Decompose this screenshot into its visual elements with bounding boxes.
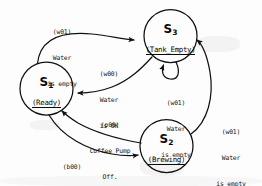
edge-label-condition: (w01) — [202, 128, 260, 137]
state-node-s3-circle — [144, 10, 197, 63]
edge-label-condition: (w01) — [31, 28, 93, 37]
edge-label-condition: (p00) — [74, 121, 146, 130]
edge-label-condition: (b00) — [47, 163, 97, 172]
edge-label-line2: is empty — [148, 151, 204, 160]
edge-s3-self-loop — [162, 62, 178, 79]
edge-label-s1-to-s2: (b00) Button Coffee — [47, 146, 97, 186]
edge-label-condition: (w00) — [83, 70, 135, 79]
edge-label-s2-to-s3: (w01) Water is empty — [202, 111, 260, 186]
edge-label-s3-self-loop: (w01) Water is empty — [148, 82, 204, 177]
edge-label-line1: Water — [148, 125, 204, 134]
edge-label-line1: Water — [202, 154, 260, 163]
edge-label-condition: (w01) — [148, 99, 204, 108]
edge-label-line2: is empty — [202, 180, 260, 186]
state-diagram-canvas: S1 (Ready) S2 (Brewing) S3 (Tank_Empty) … — [0, 0, 262, 186]
